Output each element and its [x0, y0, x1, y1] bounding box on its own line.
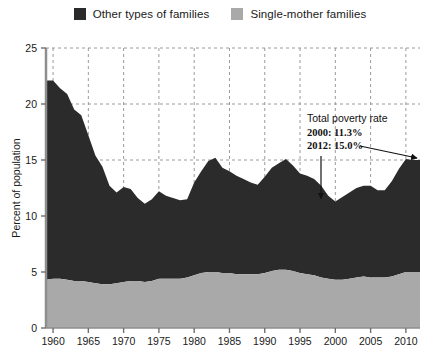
- annotation-value-2000: 2000: 11.3%: [307, 127, 362, 138]
- annotation-arrow-2012: [360, 146, 417, 158]
- y-tick-label: 25: [25, 42, 37, 54]
- y-tick-label: 0: [31, 322, 37, 334]
- x-tick-label: 2005: [359, 335, 383, 347]
- y-tick-label: 20: [25, 98, 37, 110]
- y-axis-title: Percent of population: [10, 138, 22, 237]
- x-tick-label: 1985: [218, 335, 242, 347]
- x-tick-label: 1980: [183, 335, 207, 347]
- x-tick-label: 1975: [147, 335, 171, 347]
- annotation-value-2012: 2012: 15.0%: [307, 140, 363, 151]
- x-tick-label: 1965: [77, 335, 101, 347]
- y-tick-label: 15: [25, 154, 37, 166]
- x-tick-label: 2010: [394, 335, 418, 347]
- plot-area: 0510152025196019651970197519801985199019…: [0, 0, 440, 362]
- y-tick-label: 5: [31, 266, 37, 278]
- x-tick-label: 1960: [41, 335, 65, 347]
- x-tick-label: 1970: [112, 335, 136, 347]
- poverty-rate-chart: Other types of families Single-mother fa…: [0, 0, 440, 362]
- annotation-title: Total poverty rate: [307, 112, 388, 124]
- chart-svg: 0510152025196019651970197519801985199019…: [0, 0, 440, 362]
- x-tick-label: 1990: [253, 335, 277, 347]
- x-tick-label: 2000: [324, 335, 348, 347]
- y-tick-label: 10: [25, 210, 37, 222]
- x-tick-label: 1995: [288, 335, 312, 347]
